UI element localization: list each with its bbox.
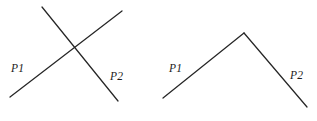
diagram-background bbox=[0, 0, 317, 121]
line-diagram-canvas: P1 P2 P1 P2 bbox=[0, 0, 317, 121]
right-label-p2: P2 bbox=[289, 69, 303, 81]
left-label-p1: P1 bbox=[10, 62, 24, 74]
right-label-p1: P1 bbox=[168, 62, 182, 74]
left-label-p2: P2 bbox=[109, 70, 123, 82]
